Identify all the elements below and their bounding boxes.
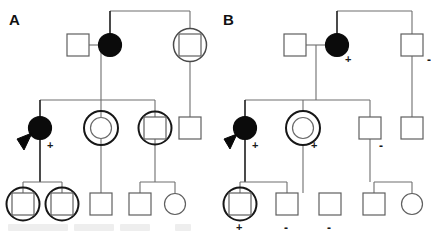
a-proband-arrow-icon — [17, 133, 32, 150]
scan-artifact-4 — [175, 224, 191, 231]
a-i-3-square[interactable] — [179, 34, 201, 56]
a-iii-3-square[interactable] — [90, 193, 112, 215]
scan-artifact-1 — [8, 224, 68, 231]
pedigree-panel-a — [0, 0, 431, 238]
mark-b-i-2: + — [345, 54, 351, 65]
b-ii-4-square[interactable] — [401, 117, 423, 139]
b-i-1-square[interactable] — [284, 34, 306, 56]
a-ii-2-inner-circle[interactable] — [91, 118, 112, 139]
a-ii-3-square[interactable] — [144, 117, 166, 139]
b-iii-5-circle[interactable] — [402, 194, 423, 215]
mark-b-ii-3: - — [379, 140, 383, 152]
a-ii-4-square[interactable] — [179, 117, 201, 139]
b-ii-1-filled-circle[interactable] — [234, 117, 257, 140]
a-iii-4-square[interactable] — [129, 193, 151, 215]
a-i-2-filled-circle[interactable] — [99, 34, 122, 57]
scan-artifact-2 — [74, 224, 114, 231]
b-proband-arrow-icon — [224, 134, 237, 149]
mark-a-ii-1: + — [47, 140, 53, 151]
mark-b-i-3: - — [427, 54, 431, 66]
b-iii-3-square[interactable] — [319, 193, 341, 215]
a-ii-1-filled-circle[interactable] — [29, 117, 52, 140]
mark-b-ii-2: + — [311, 140, 317, 151]
a-i-1-square[interactable] — [67, 34, 89, 56]
b-ii-3-square[interactable] — [359, 117, 381, 139]
b-iii-4-square[interactable] — [363, 193, 385, 215]
mark-b-iii-2: - — [284, 222, 288, 234]
scan-artifact-3 — [120, 224, 150, 231]
pedigree-figure: A B — [0, 0, 431, 238]
b-iii-1-square[interactable] — [229, 193, 251, 215]
mark-b-ii-1: + — [252, 140, 258, 151]
a-iii-2-square[interactable] — [51, 193, 73, 215]
a-iii-5-circle[interactable] — [165, 194, 186, 215]
b-ii-2-inner-circle[interactable] — [293, 118, 314, 139]
b-iii-2-square[interactable] — [276, 193, 298, 215]
mark-b-iii-3: - — [327, 222, 331, 234]
b-i-3-square[interactable] — [401, 34, 423, 56]
a-iii-1-square[interactable] — [12, 193, 34, 215]
mark-b-iii-1: + — [236, 222, 242, 233]
